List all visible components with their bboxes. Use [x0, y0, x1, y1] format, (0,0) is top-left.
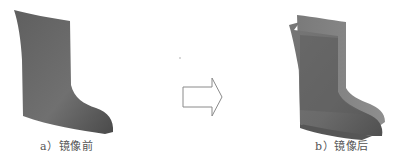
boot-after-mirror	[289, 15, 385, 140]
caption-before-mirror: a）镜像前	[40, 137, 93, 153]
right-arrow-icon	[183, 78, 222, 116]
stray-dot	[179, 57, 181, 59]
mirror-operation-figure: a）镜像前 b）镜像后	[0, 0, 401, 162]
caption-after-mirror: b）镜像后	[315, 137, 369, 153]
boot-before-mirror	[14, 10, 113, 134]
